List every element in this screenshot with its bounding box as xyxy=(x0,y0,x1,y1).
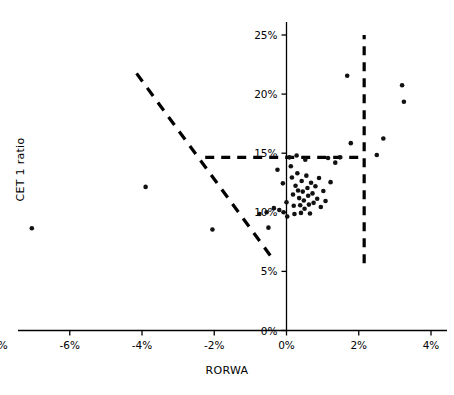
data-point xyxy=(289,164,294,169)
data-point xyxy=(272,206,277,211)
data-point xyxy=(307,202,312,207)
data-point xyxy=(310,191,315,196)
data-point xyxy=(281,210,286,215)
data-point xyxy=(294,153,299,158)
data-point xyxy=(309,180,314,185)
data-point xyxy=(299,179,304,184)
data-point xyxy=(285,214,290,219)
data-point xyxy=(266,225,271,230)
data-point xyxy=(402,99,407,104)
y-axis-tick-label: 0% xyxy=(261,325,278,337)
data-point xyxy=(297,196,302,201)
x-axis-tick-label: 0% xyxy=(278,339,295,351)
x-axis-tick-label: -8% xyxy=(0,339,8,351)
data-point xyxy=(30,226,35,231)
data-point-group xyxy=(30,73,407,231)
data-point xyxy=(291,192,296,197)
data-point xyxy=(311,201,316,206)
data-point xyxy=(210,227,215,232)
x-axis-tick-label: 2% xyxy=(350,339,367,351)
data-point xyxy=(400,83,405,88)
data-point xyxy=(257,212,262,217)
data-point xyxy=(296,188,301,193)
y-axis-tick-label: 20% xyxy=(254,88,277,100)
data-point xyxy=(143,185,148,190)
data-point xyxy=(302,198,307,203)
data-point xyxy=(302,206,307,211)
data-point xyxy=(290,175,295,180)
data-point xyxy=(319,205,324,210)
data-point xyxy=(306,193,311,198)
data-point xyxy=(381,136,386,141)
data-point xyxy=(287,155,292,160)
data-point xyxy=(375,153,380,158)
data-point xyxy=(293,183,298,188)
data-point xyxy=(345,73,350,78)
data-point xyxy=(292,212,297,217)
data-point xyxy=(295,171,300,176)
data-point xyxy=(305,186,310,191)
data-point xyxy=(349,141,354,146)
data-point xyxy=(313,184,318,189)
data-point xyxy=(281,181,286,186)
y-axis-title-wrapper: CET 1 ratio xyxy=(9,90,28,250)
data-point xyxy=(328,180,333,185)
data-point xyxy=(298,203,303,208)
data-point xyxy=(299,211,304,216)
x-axis-title: RORWA xyxy=(0,364,454,377)
data-point xyxy=(315,196,320,201)
diagonal-frontier-line xyxy=(137,73,271,255)
data-point xyxy=(317,176,322,181)
y-axis-title: CET 1 ratio xyxy=(14,138,27,202)
data-point xyxy=(326,156,331,161)
x-axis-tick-label: 4% xyxy=(423,339,440,351)
scatter-chart: -8%-6%-4%-2%0%2%4%0%5%10%15%20%25% RORWA… xyxy=(0,0,454,395)
data-point xyxy=(275,167,280,172)
data-point xyxy=(304,173,309,178)
data-point xyxy=(291,203,296,208)
data-point xyxy=(277,208,282,213)
data-point xyxy=(284,200,289,205)
x-axis-tick-label: -6% xyxy=(60,339,80,351)
data-point xyxy=(300,189,305,194)
plot-area: -8%-6%-4%-2%0%2%4%0%5%10%15%20%25% xyxy=(0,0,454,395)
data-point xyxy=(303,157,308,162)
y-axis-tick-label: 5% xyxy=(261,265,278,277)
data-point xyxy=(308,211,313,216)
data-point xyxy=(333,160,338,165)
data-point xyxy=(338,155,343,160)
data-point xyxy=(323,199,328,204)
data-point xyxy=(264,210,269,215)
data-point xyxy=(321,189,326,194)
y-axis-tick-label: 25% xyxy=(254,29,277,41)
x-axis-tick-label: -4% xyxy=(132,339,152,351)
x-axis-tick-label: -2% xyxy=(204,339,224,351)
